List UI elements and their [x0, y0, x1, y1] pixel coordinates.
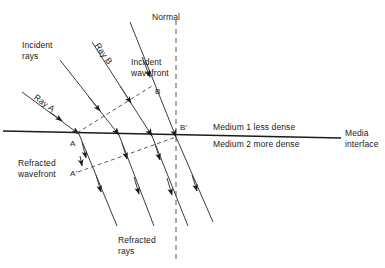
- label-normal: Normal: [152, 12, 180, 23]
- diagram-canvas: [0, 0, 385, 268]
- refracted-arrow-2a: [122, 143, 127, 159]
- refraction-diagram: Normal Incident rays Ray A Ray B Inciden…: [0, 0, 385, 268]
- incident-midarrow-2: [88, 96, 100, 111]
- incident-wavefront-line: [77, 86, 152, 133]
- label-refracted-rays: Refracted rays: [118, 235, 156, 257]
- point-label-a: A: [70, 138, 75, 149]
- label-medium-2: Medium 2 more dense: [213, 139, 299, 150]
- label-media-interface: Media interface: [345, 128, 379, 150]
- label-medium-1: Medium 1 less dense: [213, 122, 295, 133]
- refracted-arrow-1b: [96, 175, 101, 192]
- refracted-arrow-3a: [155, 144, 160, 160]
- label-incident-rays: Incident rays: [22, 40, 53, 62]
- label-incident-wavefront: Incident wavefront: [131, 57, 169, 79]
- point-label-b: B: [155, 86, 160, 97]
- incident-midarrow-1: [50, 112, 62, 121]
- point-label-a-prime: A': [70, 168, 77, 179]
- a-prime-stub-arrow: [80, 156, 82, 166]
- refracted-ray-1: [79, 134, 117, 226]
- point-label-b-prime: B': [180, 122, 187, 133]
- incident-ray-4: [130, 22, 176, 137]
- incident-midarrow-3: [120, 86, 131, 103]
- refracted-ray-3: [152, 136, 188, 226]
- label-refracted-wavefront: Refracted wavefront: [18, 158, 56, 180]
